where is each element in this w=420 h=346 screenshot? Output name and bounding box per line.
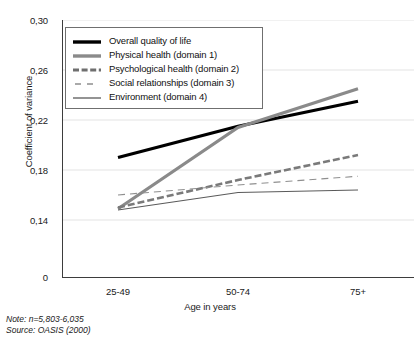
x-axis-tick-labels: 25-49 50-74 75+ bbox=[0, 286, 420, 302]
legend-swatch-icon bbox=[72, 76, 102, 88]
footnote-note: Note: n=5,803-6,035 bbox=[6, 314, 91, 325]
legend-item-physical-health: Physical health (domain 1) bbox=[72, 47, 256, 61]
legend-item-label: Psychological health (domain 2) bbox=[109, 63, 239, 74]
legend-item-psychological-health: Psychological health (domain 2) bbox=[72, 61, 256, 75]
chart-figure: 0,30 0,26 0,22 0,18 0,14 0 Coefficient o… bbox=[0, 0, 420, 346]
x-tick-label: 25-49 bbox=[88, 286, 148, 297]
x-tick-label: 75+ bbox=[328, 286, 388, 297]
legend-swatch-icon bbox=[72, 90, 102, 102]
legend-item-overall-quality-of-life: Overall quality of life bbox=[72, 33, 256, 47]
y-tick-label: 0 bbox=[14, 272, 48, 283]
y-tick-label: 0,14 bbox=[14, 215, 48, 226]
legend-item-label: Overall quality of life bbox=[109, 35, 191, 46]
footnote-source: Source: OASIS (2000) bbox=[6, 325, 91, 336]
legend-item-label: Physical health (domain 1) bbox=[109, 49, 217, 60]
legend-swatch-icon bbox=[72, 62, 102, 74]
legend-item-label: Social relationships (domain 3) bbox=[109, 77, 234, 88]
legend-item-environment: Environment (domain 4) bbox=[72, 89, 256, 103]
legend-item-social-relationships: Social relationships (domain 3) bbox=[72, 75, 256, 89]
figure-footnotes: Note: n=5,803-6,035 Source: OASIS (2000) bbox=[6, 314, 91, 336]
legend-swatch-icon bbox=[72, 48, 102, 60]
x-axis-title: Age in years bbox=[150, 301, 270, 312]
x-tick-label: 50-74 bbox=[208, 286, 268, 297]
legend-item-label: Environment (domain 4) bbox=[109, 91, 207, 102]
y-tick-label: 0,30 bbox=[14, 15, 48, 26]
y-axis-title: Coefficient of variance bbox=[23, 42, 34, 202]
chart-legend: Overall quality of life Physical health … bbox=[65, 27, 263, 109]
legend-swatch-icon bbox=[72, 34, 102, 46]
series-line bbox=[118, 155, 358, 208]
